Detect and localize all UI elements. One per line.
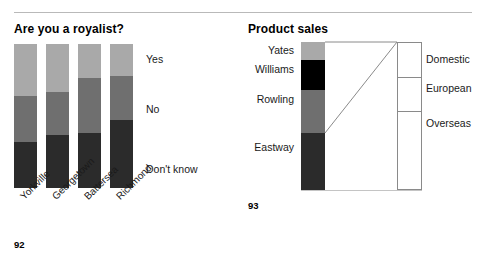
bar-segment-yes	[78, 44, 101, 78]
bar-segment-no	[14, 96, 37, 142]
top-divider-rule	[14, 12, 472, 13]
bar-segment-rowling	[301, 90, 325, 133]
bar-segment-yates	[301, 42, 325, 60]
bar-product-sales[interactable]	[301, 42, 325, 190]
bar-segment-williams	[301, 60, 325, 90]
series-label-yates: Yates	[248, 44, 294, 56]
bar-segment-yes	[110, 44, 133, 76]
breakout-label-european: European	[426, 82, 472, 94]
breakout-divider-2	[398, 111, 421, 112]
bar-segment-yes	[14, 44, 37, 96]
bar-segment-no	[46, 92, 69, 135]
breakout-box[interactable]	[397, 42, 422, 190]
bar-segment-no	[110, 76, 133, 120]
breakout-divider-1	[398, 77, 421, 78]
left-page-number: 92	[14, 239, 25, 250]
breakout-label-domestic: Domestic	[426, 53, 470, 65]
series-label-eastway: Eastway	[248, 141, 294, 153]
bar-georgetown[interactable]	[46, 44, 69, 188]
chart-baseline	[301, 190, 422, 191]
legend-item-yes: Yes	[146, 53, 163, 65]
left-chart-title: Are you a royalist?	[14, 22, 124, 36]
figure-page: Are you a royalist? Yes No Don't know Yo…	[0, 0, 482, 256]
bar-segment-yes	[46, 44, 69, 92]
bar-segment-eastway	[301, 133, 325, 190]
bar-segment-no	[78, 78, 101, 133]
legend-item-no: No	[146, 103, 159, 115]
series-label-williams: Williams	[248, 63, 294, 75]
right-chart-title: Product sales	[248, 22, 328, 36]
legend-item-dont-know: Don't know	[146, 163, 198, 175]
bar-yorkville[interactable]	[14, 44, 37, 188]
series-label-rowling: Rowling	[248, 93, 294, 105]
right-page-number: 93	[248, 200, 259, 211]
breakout-label-overseas: Overseas	[426, 117, 471, 129]
